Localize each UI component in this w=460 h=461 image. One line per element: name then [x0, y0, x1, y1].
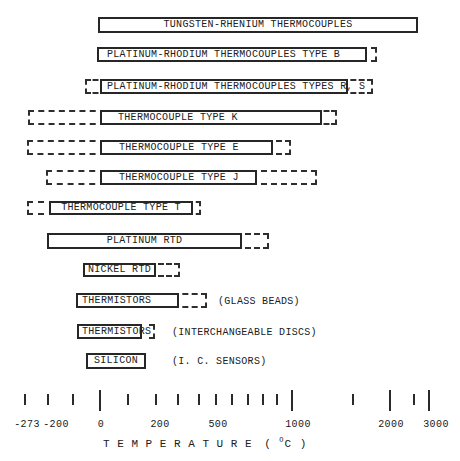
sensor-row: PLATINUM RTD: [0, 233, 460, 249]
sensor-row: THERMOCOUPLE TYPE J: [0, 170, 460, 185]
sensor-range-box: PLATINUM-RHODIUM THERMOCOUPLES TYPES R, …: [100, 79, 348, 94]
sensor-range-label: THERMOCOUPLE TYPE E: [119, 143, 239, 153]
axis-tick-label: 2000: [378, 419, 404, 430]
axis-tick: [127, 394, 129, 405]
axis-tick-label: 3000: [423, 419, 449, 430]
sensor-row: THERMISTORS(GLASS BEADS): [0, 293, 460, 308]
axis-title-text: T E M P E R A T U R E: [103, 438, 252, 450]
sensor-range-box: PLATINUM-RHODIUM THERMOCOUPLES TYPE B: [97, 47, 367, 62]
axis-tick: [262, 394, 264, 405]
axis-tick: [24, 394, 26, 405]
axis-unit: ( OC ): [264, 438, 307, 450]
axis-tick: [389, 390, 391, 411]
sensor-range-label: PLATINUM-RHODIUM THERMOCOUPLES TYPE B: [107, 50, 340, 60]
sensor-note: (I. C. SENSORS): [172, 356, 267, 367]
sensor-row: SILICON(I. C. SENSORS): [0, 353, 460, 369]
axis-tick: [215, 394, 217, 405]
sensor-range-box: THERMOCOUPLE TYPE J: [100, 170, 257, 185]
sensor-range-box: THERMISTORS: [77, 324, 142, 339]
axis-tick: [352, 394, 354, 405]
axis-tick: [291, 390, 293, 411]
axis-tick: [99, 390, 101, 411]
axis-tick-label: 1000: [285, 419, 311, 430]
axis-tick-label: 500: [208, 419, 227, 430]
sensor-range-box: PLATINUM RTD: [47, 233, 242, 249]
sensor-row: TUNGSTEN-RHENIUM THERMOCOUPLES: [0, 17, 460, 33]
sensor-range-box: NICKEL RTD: [83, 263, 156, 277]
sensor-temperature-range-chart: TUNGSTEN-RHENIUM THERMOCOUPLESPLATINUM-R…: [0, 0, 460, 461]
sensor-range-label: THERMISTORS: [82, 327, 151, 337]
range-extension-dashed-right: [251, 170, 317, 185]
axis-tick: [247, 394, 249, 405]
sensor-range-box: THERMISTORS: [76, 293, 179, 308]
sensor-row: PLATINUM-RHODIUM THERMOCOUPLES TYPE B: [0, 47, 460, 62]
sensor-range-box: THERMOCOUPLE TYPE K: [100, 110, 322, 125]
axis-tick: [72, 394, 74, 405]
sensor-range-label: THERMOCOUPLE TYPE T: [61, 203, 181, 213]
axis-tick-label: 200: [150, 419, 169, 430]
sensor-range-label: THERMISTORS: [82, 296, 151, 306]
sensor-row: THERMOCOUPLE TYPE T: [0, 201, 460, 215]
range-extension-dashed-left: [46, 170, 106, 185]
axis-tick: [177, 394, 179, 405]
axis-tick-label: -200: [43, 419, 69, 430]
sensor-row: NICKEL RTD: [0, 263, 460, 277]
sensor-range-box: SILICON: [86, 353, 146, 369]
sensor-row: PLATINUM-RHODIUM THERMOCOUPLES TYPES R, …: [0, 79, 460, 94]
axis-tick: [428, 390, 430, 411]
sensor-range-box: TUNGSTEN-RHENIUM THERMOCOUPLES: [98, 17, 418, 33]
sensor-range-label: PLATINUM-RHODIUM THERMOCOUPLES TYPES R, …: [107, 82, 365, 92]
axis-tick: [47, 394, 49, 405]
sensor-row: THERMOCOUPLE TYPE E: [0, 140, 460, 155]
sensor-range-label: THERMOCOUPLE TYPE K: [118, 113, 238, 123]
axis-tick-label: 0: [98, 419, 104, 430]
axis-tick: [276, 394, 278, 405]
sensor-range-label: TUNGSTEN-RHENIUM THERMOCOUPLES: [163, 20, 352, 30]
sensor-range-label: NICKEL RTD: [88, 265, 151, 275]
axis-tick: [198, 394, 200, 405]
axis-tick: [231, 394, 233, 405]
sensor-range-box: THERMOCOUPLE TYPE E: [100, 140, 273, 155]
range-extension-dashed-left: [28, 110, 106, 125]
sensor-range-box: THERMOCOUPLE TYPE T: [49, 201, 193, 215]
sensor-range-label: THERMOCOUPLE TYPE J: [119, 173, 239, 183]
sensor-range-label: PLATINUM RTD: [107, 236, 183, 246]
sensor-note: (INTERCHANGEABLE DISCS): [172, 326, 317, 337]
axis-tick: [155, 394, 157, 405]
sensor-row: THERMISTORS(INTERCHANGEABLE DISCS): [0, 324, 460, 339]
sensor-row: THERMOCOUPLE TYPE K: [0, 110, 460, 125]
range-extension-dashed-left: [27, 140, 106, 155]
axis-tick-label: -273: [14, 419, 40, 430]
sensor-note: (GLASS BEADS): [218, 295, 300, 306]
sensor-range-label: SILICON: [94, 356, 138, 366]
axis-tick: [413, 394, 415, 405]
axis-title: T E M P E R A T U R E( OC ): [103, 436, 307, 450]
